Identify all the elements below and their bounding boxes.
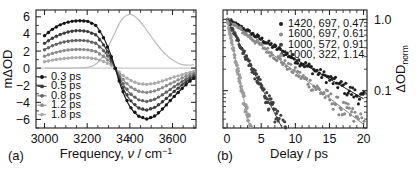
panel-b-data-point [239, 76, 242, 79]
panel-a-yticklabel: 4 [23, 27, 30, 41]
panel-b-legend-marker-2 [279, 43, 283, 47]
panel-b-data-point [324, 96, 327, 99]
panel-b-data-point [285, 65, 288, 68]
panel-b-data-point [358, 98, 361, 101]
panel-a-data-marker [55, 25, 58, 28]
panel-a-data-marker [137, 114, 140, 117]
panel-b: 051015201.00.1ΔODnormDelay / ps(b)1420, … [207, 0, 417, 170]
panel-b-data-point [274, 44, 277, 47]
panel-a-data-marker [180, 80, 183, 83]
panel-b-data-point [243, 94, 246, 97]
panel-a-data-marker [47, 59, 50, 62]
panel-a-data-marker [133, 95, 136, 98]
panel-a-data-marker [106, 62, 109, 65]
panel-b-data-point [266, 101, 269, 104]
panel-a-data-marker [59, 57, 62, 60]
panel-a-data-marker [161, 86, 164, 89]
panel-b-yticklabel: 0.1 [374, 84, 391, 98]
panel-b-data-point [304, 61, 307, 64]
panel-a-data-marker [47, 53, 50, 56]
panel-a-data-marker [70, 29, 73, 32]
panel-b-data-point [340, 80, 343, 83]
panel-a-yticklabel: −4 [16, 96, 30, 110]
panel-a-data-marker [173, 75, 176, 78]
panel-b-data-point [337, 113, 340, 116]
panel-b-legend-label-3: 1000, 322, 1.14 [288, 48, 364, 60]
panel-b-data-point [250, 125, 253, 128]
panel-b-data-point [237, 69, 240, 72]
panel-a-yticklabel: −2 [16, 79, 30, 93]
panel-a-data-marker [98, 30, 101, 33]
panel-b-data-point [319, 68, 322, 71]
panel-b-data-point [230, 40, 233, 43]
panel-a-data-marker [161, 100, 164, 103]
panel-a-data-marker [78, 19, 81, 22]
panel-a-data-marker [165, 84, 168, 87]
panel-a-data-marker [125, 99, 128, 102]
panel-b-xticklabel: 20 [357, 132, 371, 146]
panel-a-data-marker [169, 99, 172, 102]
panel-b-data-point [305, 77, 308, 80]
panel-a-data-marker [188, 79, 191, 82]
panel-a-data-marker [51, 28, 54, 31]
panel-a-data-marker [62, 22, 65, 25]
panel-a-data-marker [149, 90, 152, 93]
panel-b-data-point [266, 47, 269, 50]
panel-a-data-marker [102, 60, 105, 63]
panel-a-data-marker [47, 31, 50, 34]
panel-b-data-point [254, 69, 257, 72]
panel-a-data-marker [153, 106, 156, 109]
panel-a-data-marker [165, 90, 168, 93]
panel-b-data-point [268, 94, 271, 97]
panel-a-data-marker [86, 39, 89, 42]
panel-a-xticklabel: 3600 [159, 132, 187, 146]
panel-a-data-marker [118, 79, 121, 82]
panel-a-data-marker [70, 56, 73, 59]
panel-a-data-marker [173, 90, 176, 93]
panel-b-data-point [231, 43, 234, 46]
panel-a-data-marker [94, 33, 97, 36]
panel-b-ylabel: ΔODnorm [393, 45, 410, 93]
panel-a-data-marker [169, 88, 172, 91]
panel-a-data-marker [102, 43, 105, 46]
panel-a-data-marker [192, 77, 195, 80]
panel-b-data-point [351, 107, 354, 110]
panel-b-yticklabel: 1.0 [374, 13, 391, 27]
panel-a-data-marker [161, 107, 164, 110]
panel-a-data-marker [133, 80, 136, 83]
panel-a-plot: 30003200340036006420−2−4−6mΔODFrequency,… [0, 0, 207, 170]
panel-a-data-marker [110, 55, 113, 58]
panel-a-data-marker [94, 42, 97, 45]
panel-a-data-marker [94, 50, 97, 53]
panel-b-data-point [236, 64, 239, 67]
panel-a-data-marker [180, 76, 183, 79]
panel-a-data-marker [184, 83, 187, 86]
panel-b-data-point [229, 32, 232, 35]
panel-a-data-marker [78, 56, 81, 59]
panel-b-data-point [343, 112, 346, 115]
panel-b-legend-marker-1 [279, 32, 283, 36]
panel-b-data-point [325, 81, 328, 84]
panel-a-data-marker [55, 51, 58, 54]
panel-a-data-marker [82, 29, 85, 32]
panel-a-data-marker [62, 31, 65, 34]
panel-a-data-marker [78, 48, 81, 51]
panel-a-data-marker [62, 57, 65, 60]
panel-a-data-marker [102, 49, 105, 52]
panel-b-data-point [350, 93, 353, 96]
panel-b-data-point [255, 73, 258, 76]
panel-b-data-point [308, 85, 311, 88]
panel-b-data-point [276, 110, 279, 113]
panel-a-data-marker [86, 56, 89, 59]
panel-b-data-point [326, 89, 329, 92]
panel-b-data-point [245, 54, 248, 57]
panel-a-data-marker [94, 24, 97, 27]
panel-a-data-marker [176, 74, 179, 77]
panel-a-data-marker [153, 114, 156, 117]
panel-a-data-marker [59, 23, 62, 26]
panel-a-data-marker [98, 58, 101, 61]
panel-a-data-marker [59, 41, 62, 44]
panel-a-yticklabel: 2 [23, 45, 30, 59]
panel-a-data-marker [180, 87, 183, 90]
panel-a-data-marker [129, 85, 132, 88]
